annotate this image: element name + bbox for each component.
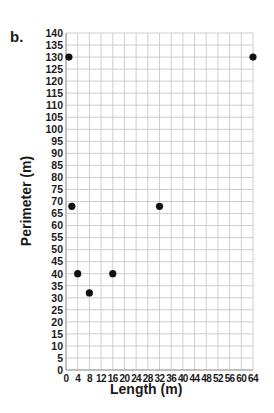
y-tick-label: 95	[51, 135, 63, 147]
y-tick-label: 55	[51, 231, 63, 243]
y-tick-label: 50	[51, 243, 63, 255]
y-tick-label: 80	[51, 171, 63, 183]
y-tick-label: 0	[57, 364, 63, 376]
data-point	[86, 289, 93, 296]
y-tick-label: 65	[51, 207, 63, 219]
y-tick-label: 25	[51, 304, 63, 316]
y-tick-label: 105	[45, 111, 63, 123]
y-tick-label: 40	[51, 268, 63, 280]
x-tick-label: 12	[96, 373, 107, 384]
y-axis-label: Perimeter (m)	[18, 156, 34, 246]
y-tick-label: 60	[51, 219, 63, 231]
x-axis-label: Length (m)	[110, 381, 182, 397]
data-point	[74, 270, 81, 277]
y-tick-label: 5	[57, 352, 63, 364]
y-tick-label: 20	[51, 316, 63, 328]
data-point	[65, 53, 72, 60]
y-tick-label: 135	[45, 39, 63, 51]
y-tick-label: 15	[51, 328, 63, 340]
y-tick-label: 140	[45, 27, 63, 39]
x-tick-label: 48	[201, 373, 212, 384]
y-tick-label: 30	[51, 292, 63, 304]
y-tick-label: 115	[46, 87, 63, 99]
scatter-plot: 0510152025303540455055606570758085909510…	[0, 0, 274, 413]
x-tick-label: 60	[236, 373, 247, 384]
y-tick-label: 120	[45, 75, 63, 87]
y-tick-label: 10	[51, 340, 63, 352]
y-tick-label: 35	[51, 280, 63, 292]
x-tick-label: 0	[64, 373, 70, 384]
data-point	[249, 53, 256, 60]
y-tick-label: 130	[45, 51, 63, 63]
x-tick-label: 4	[75, 373, 81, 384]
data-point	[156, 203, 163, 210]
x-tick-label: 8	[87, 373, 93, 384]
x-tick-label: 56	[225, 373, 236, 384]
x-tick-label: 52	[213, 373, 224, 384]
data-point	[109, 270, 116, 277]
y-tick-label: 110	[46, 99, 63, 111]
x-tick-label: 44	[190, 373, 201, 384]
y-tick-label: 85	[51, 159, 63, 171]
y-tick-label: 45	[51, 255, 63, 267]
y-tick-label: 75	[51, 183, 63, 195]
y-tick-label: 70	[51, 195, 63, 207]
data-point	[68, 203, 75, 210]
x-tick-label: 64	[248, 373, 259, 384]
y-tick-label: 125	[45, 63, 63, 75]
y-tick-label: 100	[45, 123, 63, 135]
y-tick-label: 90	[51, 147, 63, 159]
